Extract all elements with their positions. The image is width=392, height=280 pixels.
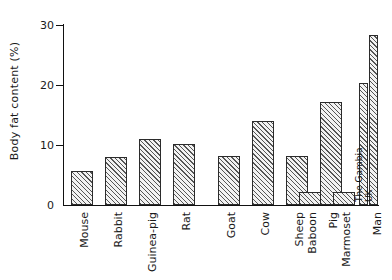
x-label-cow: Cow	[260, 212, 272, 235]
plot-area-primates: The Gambia UK	[63, 25, 379, 205]
bar-baboon	[299, 192, 321, 205]
bar-man-uk: UK	[369, 35, 378, 205]
x-label-baboon: Baboon	[307, 212, 319, 254]
x-axis-line	[63, 205, 379, 206]
x-label-marmoset: Marmoset	[341, 212, 353, 267]
bar-chart-body-fat-content: Body fat content (%) 30 20 10 0 The Gamb…	[0, 0, 392, 280]
y-axis-title: Body fat content (%)	[8, 6, 26, 196]
y-tick-label-20: 20	[30, 79, 54, 92]
x-label-pig: Pig	[328, 212, 340, 228]
y-tick-label-0: 0	[30, 199, 54, 212]
x-label-guinea-pig: Guinea-pig	[147, 212, 159, 272]
bar-marmoset	[333, 192, 355, 205]
x-label-mouse: Mouse	[79, 212, 91, 248]
x-label-rat: Rat	[181, 212, 193, 230]
bar-inline-label-uk: UK	[365, 190, 374, 203]
x-label-rabbit: Rabbit	[113, 212, 125, 247]
x-label-goat: Goat	[226, 212, 238, 238]
x-label-man: Man	[372, 212, 384, 235]
x-label-sheep: Sheep	[294, 212, 306, 246]
bar-inline-label-the-gambia: The Gambia	[355, 147, 364, 202]
y-tick-label-10: 10	[30, 139, 54, 152]
bar-man-the-gambia: The Gambia	[359, 83, 368, 205]
y-tick-label-30: 30	[30, 19, 54, 32]
